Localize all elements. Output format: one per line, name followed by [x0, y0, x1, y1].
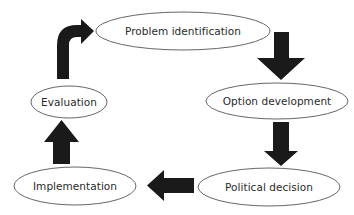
label-option-development: Option development: [223, 95, 332, 107]
arrow-left-icon: [147, 170, 194, 201]
arrow-down-icon: [264, 122, 298, 166]
label-political-decision: Political decision: [225, 181, 313, 193]
label-implementation: Implementation: [33, 180, 117, 192]
arrow-down-icon: [257, 32, 305, 80]
arrow-curved-up-right-icon: [57, 19, 94, 79]
label-evaluation: Evaluation: [41, 96, 97, 108]
arrow-up-icon: [44, 120, 79, 164]
label-problem-identification: Problem identification: [125, 25, 241, 37]
